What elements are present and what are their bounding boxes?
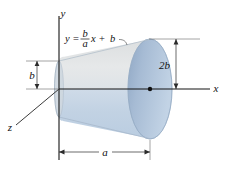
dimension-b-label: b	[29, 69, 35, 81]
dimension-a: a	[59, 140, 150, 160]
equation-denominator: a	[82, 38, 87, 49]
dimension-2b-label: 2b	[159, 59, 171, 71]
dimension-a-label: a	[102, 146, 108, 158]
y-axis-label: y	[60, 7, 66, 19]
axis-center-dot	[148, 87, 152, 91]
figure-container: y x z b 2b	[0, 0, 229, 172]
frustum-diagram: y x z b 2b	[0, 0, 229, 172]
equation-constant: b	[110, 33, 115, 44]
equation-plus: +	[99, 33, 105, 44]
z-axis	[16, 89, 59, 125]
x-axis-label: x	[213, 82, 219, 94]
equation-label: y = b a x + b	[64, 28, 127, 49]
z-axis-label: z	[7, 121, 13, 133]
equation-x-term: x	[90, 33, 96, 44]
equation-lhs: y	[64, 33, 70, 44]
equation-equals: =	[73, 33, 79, 44]
